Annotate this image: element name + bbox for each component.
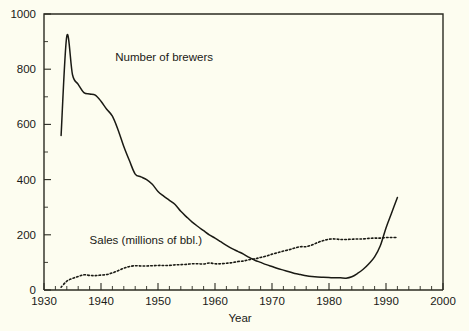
series-annotation-label: Sales (millions of bbl.) [90, 234, 203, 246]
x-tick-label: 1950 [145, 295, 171, 307]
x-tick-label: 1940 [88, 295, 114, 307]
chart-container: 19301940195019601970198019902000 0200400… [0, 0, 469, 331]
y-tick-label: 0 [30, 284, 36, 296]
x-axis-title: Year [228, 312, 251, 324]
x-tick-label: 1980 [316, 295, 342, 307]
x-tick-label: 1930 [31, 295, 57, 307]
x-tick-label: 1990 [373, 295, 399, 307]
x-tick-label: 1960 [202, 295, 228, 307]
y-tick-label: 800 [17, 63, 36, 75]
y-tick-label: 400 [17, 174, 36, 186]
x-tick-label: 1970 [259, 295, 285, 307]
y-tick-label: 1000 [10, 8, 36, 20]
x-tick-label: 2000 [430, 295, 456, 307]
y-tick-label: 200 [17, 229, 36, 241]
y-tick-label: 600 [17, 118, 36, 130]
brewers-and-sales-line-chart: 19301940195019601970198019902000 0200400… [0, 0, 469, 331]
series-annotation-label: Number of brewers [115, 51, 213, 63]
